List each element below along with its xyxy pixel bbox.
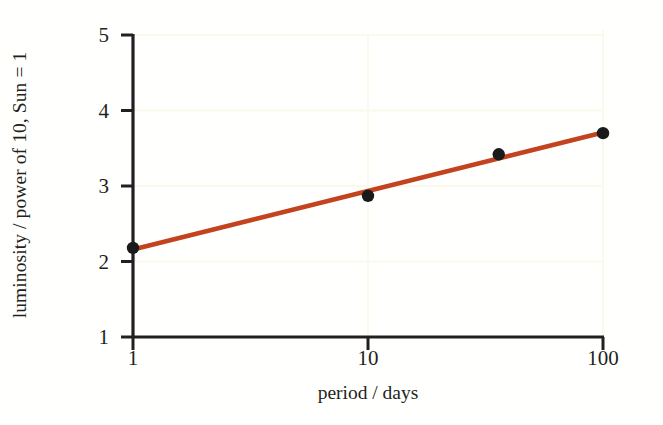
x-tick-label: 1 — [103, 348, 163, 369]
data-point — [493, 148, 505, 160]
data-point — [362, 190, 374, 202]
chart-figure: luminosity / power of 10, Sun = 1 — [0, 0, 663, 425]
y-axis-ticks — [121, 35, 133, 337]
y-tick-label: 1 — [79, 327, 109, 348]
data-point — [127, 242, 139, 254]
y-tick-label: 4 — [79, 100, 109, 121]
y-tick-label: 5 — [79, 25, 109, 46]
y-tick-label: 3 — [79, 176, 109, 197]
x-tick-label-group: 1 10 100 — [0, 348, 663, 378]
data-point — [597, 127, 609, 139]
x-tick-label: 100 — [573, 348, 633, 369]
gridlines — [133, 30, 603, 337]
x-axis-title: period / days — [133, 382, 603, 404]
y-tick-label: 2 — [79, 251, 109, 272]
x-tick-label: 10 — [338, 348, 398, 369]
